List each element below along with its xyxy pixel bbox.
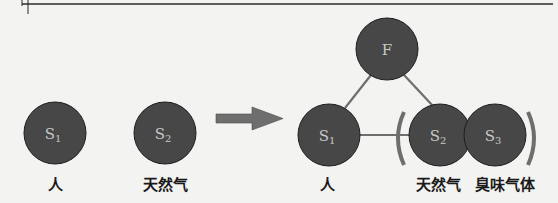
edge-f-s1	[345, 75, 371, 108]
node-s2-left: S2	[134, 102, 196, 164]
label-person-right: 人	[320, 173, 335, 194]
edge-f-s2	[404, 75, 433, 106]
node-s2-right: S2	[409, 104, 471, 166]
node-s1-left: S1	[24, 102, 86, 164]
label-natural-gas-left: 天然气	[143, 173, 188, 194]
node-f: F	[356, 18, 418, 80]
label-person-left: 人	[48, 173, 63, 194]
label-odorant-gas: 臭味气体	[475, 173, 535, 194]
substance-field-diagram: S1 S2 F S1 S2 S	[0, 0, 558, 203]
label-natural-gas-right: 天然气	[416, 173, 461, 194]
right-arrow-icon	[216, 107, 283, 130]
node-s1-right: S1	[298, 104, 360, 166]
left-paren	[398, 112, 404, 165]
node-s3: S3	[464, 104, 526, 166]
node-label: F	[382, 41, 392, 59]
right-paren	[528, 112, 534, 165]
